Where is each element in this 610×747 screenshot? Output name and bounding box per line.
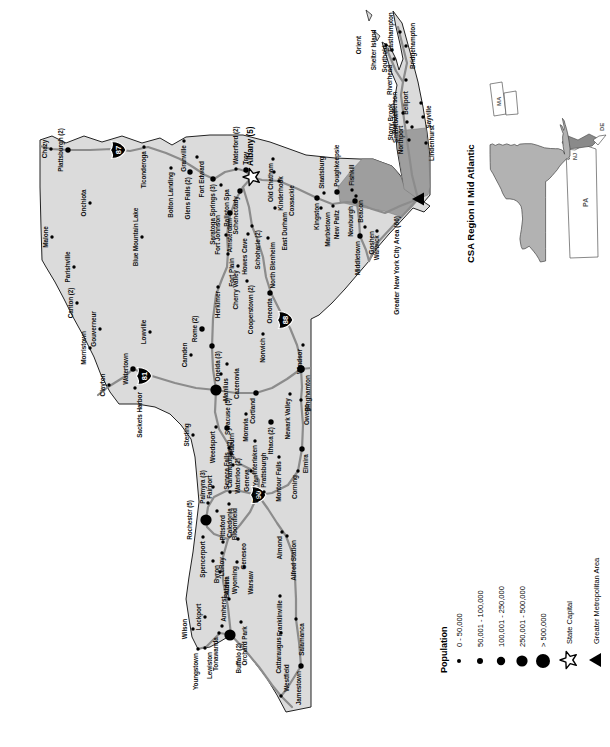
city-dot <box>279 631 282 634</box>
city-dot <box>299 446 304 451</box>
city-dot <box>215 509 218 512</box>
city-dot <box>225 362 228 365</box>
city-label: Fairport <box>206 474 214 498</box>
city-label: Orient <box>355 35 362 54</box>
legend-dot-icon <box>477 658 483 664</box>
city-dot <box>72 265 75 268</box>
city-label: Schoharie (2) <box>254 230 262 269</box>
city-dot <box>88 201 91 204</box>
city-label: Warwick <box>373 235 380 261</box>
city-dot <box>140 235 143 238</box>
city-label: Waterloo (2) <box>234 458 242 494</box>
legend-title: Population <box>439 627 449 674</box>
city-label: Beacon <box>357 200 364 223</box>
city-label: Cooperstown (2) <box>247 285 255 334</box>
city-label: Newburgh <box>347 206 355 237</box>
city-dot <box>280 530 283 533</box>
city-dot <box>419 101 422 104</box>
city-label: Prattsburgh <box>260 452 268 487</box>
city-label: Interlaken <box>251 445 258 474</box>
metro-area-label: Greater New York City Area (66) <box>393 216 401 315</box>
city-dot <box>169 166 172 169</box>
city-label: Ticonderoga <box>140 151 148 189</box>
state-outline <box>40 11 430 712</box>
city-dot <box>401 111 404 114</box>
city-dot <box>227 502 230 505</box>
legend-dot-icon <box>536 654 550 668</box>
city-label: North Blenheim <box>269 242 276 289</box>
inset-state-label: NJ <box>572 153 578 160</box>
city-label: Spencerport <box>199 540 207 578</box>
legend-star-icon <box>560 651 576 668</box>
city-dot <box>278 594 281 597</box>
city-label: Wilson <box>181 619 188 639</box>
city-label: Newark Valley <box>284 398 292 440</box>
city-label: Orchard Park <box>241 626 248 666</box>
city-label: Penn Yan <box>252 475 259 503</box>
city-dot <box>246 232 249 235</box>
city-dot <box>250 224 253 227</box>
city-label: Chazy <box>41 139 49 158</box>
city-label: Sterling <box>183 423 191 446</box>
city-label: Bellport <box>402 90 410 114</box>
city-label: Schenectady <box>232 196 240 235</box>
city-label: Youngstown <box>192 653 200 690</box>
city-label: Rome (2) <box>191 316 199 343</box>
city-dot <box>199 326 204 331</box>
city-dot <box>98 327 101 330</box>
city-dot <box>392 57 395 60</box>
city-dot <box>288 392 291 395</box>
city-dot <box>226 252 229 255</box>
city-label: Camden <box>181 343 188 368</box>
map-page: 87818890ChazyPlattsburgh (2)OnchiotaMalo… <box>0 0 610 747</box>
city-dot <box>299 398 302 401</box>
city-dot <box>271 157 274 160</box>
city-label: Granville <box>180 145 187 172</box>
city-dot <box>331 204 334 207</box>
city-dot <box>217 631 220 634</box>
city-dot <box>352 198 357 203</box>
city-label: Middletown <box>354 241 361 275</box>
city-dot <box>357 233 362 238</box>
inset-state-label: PA <box>582 198 589 207</box>
city-dot <box>277 455 280 458</box>
city-dot <box>243 167 248 172</box>
city-dot <box>219 183 222 186</box>
city-dot <box>267 290 272 295</box>
city-label: Coxsackie <box>288 185 295 216</box>
city-dot <box>237 188 242 193</box>
city-dot <box>75 301 78 304</box>
city-dot <box>354 194 357 197</box>
city-label: Cherry Valley <box>232 270 240 310</box>
city-dot <box>219 372 222 375</box>
city-label: Oneida (3) <box>214 351 222 381</box>
city-dot <box>200 514 211 525</box>
city-label: Poughkeepsie <box>333 144 341 187</box>
city-label: LeRoy <box>218 557 226 577</box>
city-label: Jamestown <box>295 671 302 705</box>
city-label: Glens Falls (2) <box>184 177 192 219</box>
city-label: Malone <box>42 226 49 248</box>
city-label: Pittsford <box>219 515 226 541</box>
shield-number: 88 <box>281 316 290 324</box>
city-label: Ithaca (2) <box>267 427 275 454</box>
city-dot <box>375 229 378 232</box>
city-label: Morristown <box>80 331 87 365</box>
city-dot <box>268 419 273 424</box>
city-label: Geneva <box>243 469 250 492</box>
city-label: Onchiota <box>80 189 87 216</box>
inset-state-label: MA <box>496 96 502 106</box>
city-label: Moravia <box>242 418 249 442</box>
city-dot <box>191 433 194 436</box>
city-label: Easthampton <box>387 12 395 52</box>
city-dot <box>253 439 256 442</box>
city-dot <box>301 343 304 346</box>
city-label: East Durham <box>281 212 288 251</box>
city-label: Fort Edward <box>198 161 205 197</box>
city-dot <box>350 188 353 191</box>
shield-number: 87 <box>114 146 123 154</box>
city-dot <box>236 537 239 540</box>
city-label: Rochester (5) <box>186 500 194 540</box>
legend-item-label: > 500,000 <box>539 613 548 647</box>
shield-number: 81 <box>140 371 149 380</box>
